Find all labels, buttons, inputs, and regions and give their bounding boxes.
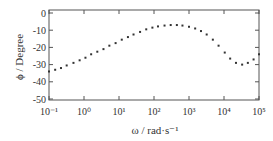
data-point <box>164 25 166 27</box>
data-point <box>90 53 92 55</box>
x-axis-label: ω / rad·s⁻¹ <box>131 124 178 136</box>
x-tick-label: 10⁰ <box>77 106 91 117</box>
data-point <box>157 25 159 27</box>
data-point <box>176 24 178 26</box>
y-tick-label: -40 <box>33 76 46 87</box>
y-tick-label: -10 <box>33 25 46 36</box>
data-point <box>79 59 81 61</box>
data-point <box>121 39 123 41</box>
data-point <box>218 45 220 47</box>
x-tick-label: 10⁴ <box>217 106 231 117</box>
plot-border <box>49 10 259 100</box>
data-point <box>258 53 260 55</box>
data-point <box>84 57 86 59</box>
data-point <box>151 27 153 29</box>
data-point <box>133 34 135 36</box>
data-point <box>115 42 117 44</box>
y-tick-label: 0 <box>41 8 46 19</box>
data-point <box>170 24 172 26</box>
x-tick-label: 10¹ <box>113 106 126 117</box>
data-point <box>194 27 196 29</box>
x-tick-label: 10⁵ <box>252 106 266 117</box>
x-tick-label: 10² <box>148 106 161 117</box>
data-point <box>127 36 129 38</box>
data-point <box>241 64 243 66</box>
y-axis-label: ϕ / Degree <box>13 34 25 80</box>
data-point <box>212 39 214 41</box>
data-point <box>108 45 110 47</box>
data-point <box>235 62 237 64</box>
data-point <box>200 30 202 32</box>
data-point <box>253 58 255 60</box>
data-point <box>247 62 249 64</box>
data-point <box>139 31 141 33</box>
data-point <box>96 51 98 53</box>
data-point <box>72 62 74 64</box>
data-point <box>145 28 147 30</box>
y-tick-label: -30 <box>33 59 46 70</box>
data-point <box>60 67 62 69</box>
data-point <box>206 34 208 36</box>
x-tick-label: 10⁻¹ <box>40 106 58 117</box>
y-axis-ticks: 0-10-20-30-40-50 <box>33 8 259 105</box>
data-points <box>48 24 260 72</box>
x-tick-label: 10³ <box>183 106 196 117</box>
y-tick-label: -50 <box>33 94 46 105</box>
data-point <box>54 69 56 71</box>
data-point <box>181 25 183 27</box>
phase-chart: 0-10-20-30-40-50 10⁻¹10⁰10¹10²10³10⁴10⁵ … <box>0 0 273 141</box>
plot-frame <box>49 10 259 100</box>
data-point <box>102 48 104 50</box>
y-tick-label: -20 <box>33 42 46 53</box>
data-point <box>224 52 226 54</box>
data-point <box>188 26 190 28</box>
data-point <box>48 70 50 72</box>
data-point <box>229 58 231 60</box>
data-point <box>66 64 68 66</box>
